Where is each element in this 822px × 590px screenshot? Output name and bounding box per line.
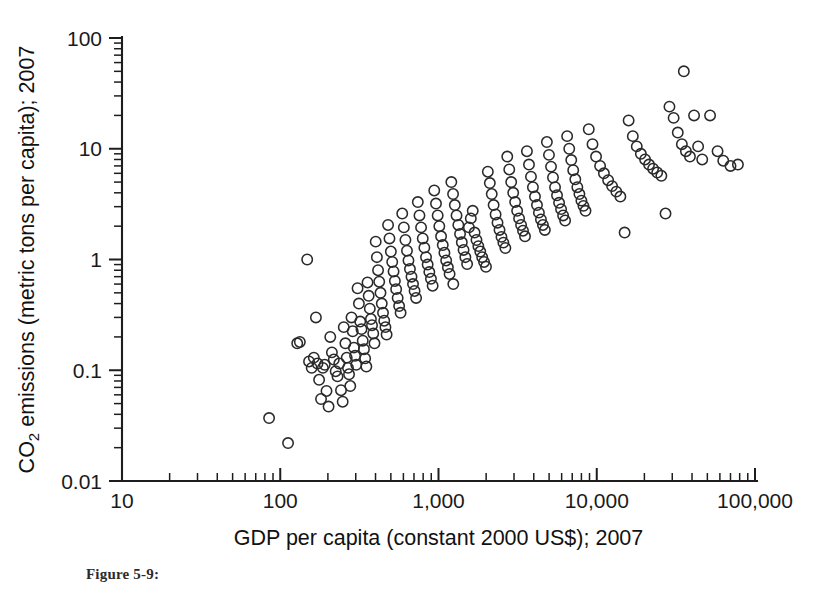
data-point <box>431 198 441 208</box>
data-point <box>413 197 423 207</box>
y-axis-title: CO2 emissions (metric tons per capita); … <box>15 46 42 474</box>
x-axis-title: GDP per capita (constant 2000 US$); 2007 <box>234 526 644 550</box>
data-point <box>733 159 743 169</box>
data-point <box>587 139 597 149</box>
x-tick-label: 1,000 <box>412 489 465 512</box>
y-tick-label: 0.1 <box>73 359 102 382</box>
data-point <box>528 182 538 192</box>
data-point <box>314 375 324 385</box>
data-point <box>395 308 405 318</box>
data-point <box>409 286 419 296</box>
data-point <box>386 246 396 256</box>
data-point <box>448 189 458 199</box>
data-point <box>400 235 410 245</box>
data-point <box>693 141 703 151</box>
data-point <box>446 177 456 187</box>
data-point <box>468 206 478 216</box>
data-point <box>399 222 409 232</box>
data-point <box>421 252 431 262</box>
data-point <box>444 269 454 279</box>
data-point <box>619 227 629 237</box>
data-point <box>321 386 331 396</box>
data-point <box>373 265 383 275</box>
data-point <box>434 221 444 231</box>
y-tick-label: 1 <box>90 248 102 271</box>
data-point <box>448 279 458 289</box>
data-point <box>460 252 470 262</box>
data-point <box>697 154 707 164</box>
data-point <box>424 267 434 277</box>
data-point <box>664 101 674 111</box>
data-point <box>432 210 442 220</box>
data-point <box>502 151 512 161</box>
data-point <box>483 167 493 177</box>
data-point <box>458 245 468 255</box>
data-point <box>488 200 498 210</box>
x-tick-label: 10 <box>110 489 133 512</box>
data-point <box>264 413 274 423</box>
data-point <box>668 113 678 123</box>
data-point <box>524 159 534 169</box>
data-point <box>514 213 524 223</box>
data-point <box>451 210 461 220</box>
data-point <box>548 172 558 182</box>
data-point <box>504 164 514 174</box>
data-point <box>383 220 393 230</box>
data-point <box>384 233 394 243</box>
x-tick-label: 10,000 <box>565 489 629 512</box>
data-point <box>554 198 564 208</box>
data-point <box>369 338 379 348</box>
data-point <box>705 110 715 120</box>
data-point <box>689 110 699 120</box>
data-point <box>427 281 437 291</box>
data-point <box>283 438 293 448</box>
y-axis-title-text: CO2 emissions (metric tons per capita); … <box>15 46 42 474</box>
data-point <box>485 178 495 188</box>
data-point <box>660 208 670 218</box>
data-point <box>566 155 576 165</box>
y-tick-label: 0.01 <box>61 470 102 493</box>
data-point <box>522 146 532 156</box>
y-title-prefix: CO <box>15 441 39 473</box>
data-point <box>323 401 333 411</box>
data-point <box>397 208 407 218</box>
data-point <box>564 144 574 154</box>
data-point <box>406 271 416 281</box>
data-point <box>441 255 451 265</box>
scatter-chart: 0.010.1110100101001,00010,000100,000GDP … <box>0 0 822 590</box>
data-point <box>673 127 683 137</box>
y-tick-label: 10 <box>79 137 102 160</box>
data-point <box>526 171 536 181</box>
data-point <box>354 298 364 308</box>
data-point <box>344 369 354 379</box>
data-point <box>311 312 321 322</box>
data-point <box>374 277 384 287</box>
y-title-suffix: emissions (metric tons per capita); 2007 <box>15 46 39 433</box>
data-point <box>337 397 347 407</box>
data-point <box>416 222 426 232</box>
data-point <box>375 288 385 298</box>
data-point <box>325 332 335 342</box>
data-point <box>712 146 722 156</box>
data-point <box>372 252 382 262</box>
figure-container: 0.010.1110100101001,00010,000100,000GDP … <box>0 0 822 590</box>
data-point <box>402 246 412 256</box>
data-point <box>725 161 735 171</box>
data-point <box>487 189 497 199</box>
data-point <box>388 266 398 276</box>
data-point <box>411 293 421 303</box>
data-point <box>426 274 436 284</box>
y-tick-label: 100 <box>67 27 102 50</box>
data-point <box>327 347 337 357</box>
data-point <box>718 156 728 166</box>
x-tick-label: 100,000 <box>717 489 793 512</box>
data-point <box>628 131 638 141</box>
data-point <box>623 115 633 125</box>
data-point <box>494 225 504 235</box>
data-point <box>562 131 572 141</box>
y-title-subscript: 2 <box>25 433 42 441</box>
data-point <box>429 185 439 195</box>
data-point <box>371 236 381 246</box>
data-point <box>462 259 472 269</box>
axis-spines <box>122 37 757 481</box>
